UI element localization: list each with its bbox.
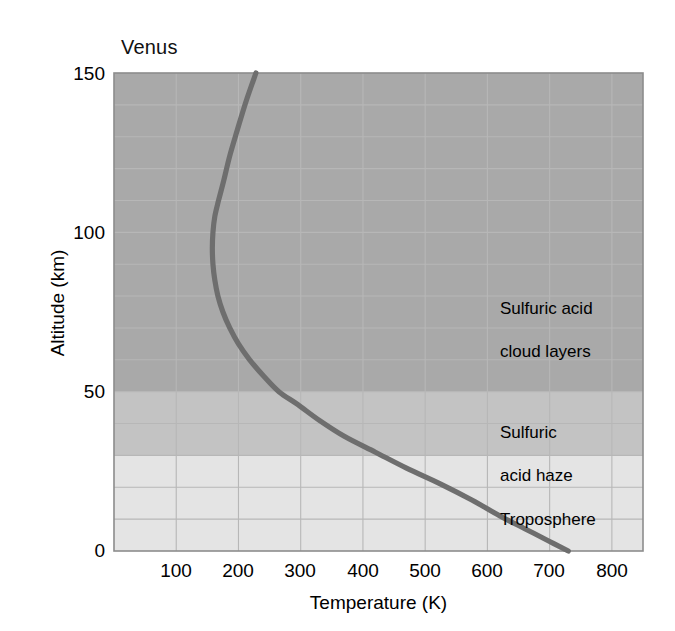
annotation-cloud-layers-line1: Sulfuric acid <box>500 298 593 320</box>
annotation-troposphere-line1: Troposphere <box>500 509 596 531</box>
annotation-cloud-layers: Sulfuric acid cloud layers <box>500 276 593 385</box>
annotation-troposphere: Troposphere <box>500 487 596 552</box>
annotation-cloud-layers-line2: cloud layers <box>500 341 593 363</box>
annotation-acid-haze-line1: Sulfuric <box>500 422 573 444</box>
annotation-acid-haze-line2: acid haze <box>500 465 573 487</box>
